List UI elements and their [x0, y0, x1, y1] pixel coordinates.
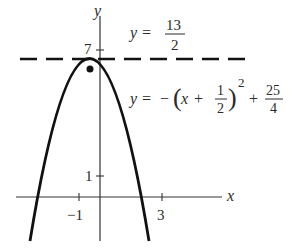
curve-plus1: +	[194, 90, 203, 107]
curve-const-den: 4	[270, 101, 277, 116]
asymptote-denominator: 2	[171, 37, 179, 53]
graph: y x −1 3 1 7 y = 13 2 y = − ( x + 1 2 ) …	[0, 0, 295, 251]
curve-plus2: +	[249, 90, 258, 107]
curve-minus: −	[160, 90, 169, 107]
curve-frac-den: 2	[217, 101, 224, 116]
curve-frac-num: 1	[217, 83, 224, 98]
curve-close-paren: )	[228, 83, 237, 112]
curve-equation-label: y = − ( x + 1 2 ) 2 + 25 4	[128, 75, 283, 116]
asymptote-lhs: y =	[128, 24, 152, 42]
curve-const-num: 25	[266, 83, 280, 98]
parabola-curve	[30, 59, 149, 242]
asymptote-label: y = 13 2	[128, 17, 185, 53]
vertex-point	[87, 66, 94, 73]
y-axis-label: y	[92, 2, 102, 20]
x-tick-label-neg1: −1	[67, 207, 83, 223]
y-tick-label-7: 7	[84, 41, 92, 57]
asymptote-numerator: 13	[166, 17, 181, 33]
x-axis-label: x	[226, 187, 234, 204]
curve-exponent: 2	[238, 75, 245, 90]
curve-lhs: y =	[128, 90, 152, 108]
y-tick-label-1: 1	[85, 168, 93, 184]
x-tick-label-3: 3	[157, 207, 165, 223]
curve-x: x	[180, 90, 188, 107]
